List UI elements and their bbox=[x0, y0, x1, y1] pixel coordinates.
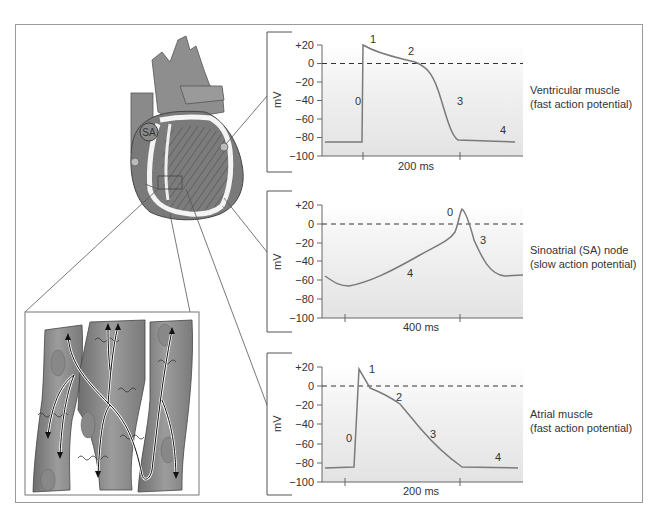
ytick: 0 bbox=[288, 57, 314, 70]
x-axis-label: 400 ms bbox=[403, 321, 439, 334]
phase-label: 2 bbox=[408, 45, 414, 58]
chart-title-line2: (slow action potential) bbox=[530, 258, 636, 271]
x-axis-label: 200 ms bbox=[403, 485, 439, 498]
ytick: 0 bbox=[288, 380, 314, 393]
y-axis-label: mV bbox=[271, 416, 284, 433]
ytick: −20 bbox=[288, 76, 314, 89]
chart-title-line2: (fast action potential) bbox=[530, 422, 632, 435]
ytick: −60 bbox=[288, 113, 314, 126]
ytick: 0 bbox=[288, 218, 314, 231]
phase-label: 0 bbox=[346, 432, 352, 445]
phase-label: 1 bbox=[369, 363, 375, 376]
ytick: +20 bbox=[288, 361, 314, 374]
phase-label: 3 bbox=[457, 95, 463, 108]
phase-label: 4 bbox=[500, 124, 506, 137]
y-axis-label: mV bbox=[271, 254, 284, 271]
ytick: −60 bbox=[288, 438, 314, 451]
ytick: −100 bbox=[284, 476, 314, 489]
phase-label: 0 bbox=[355, 95, 361, 108]
ytick: −80 bbox=[288, 457, 314, 470]
ytick: −20 bbox=[288, 237, 314, 250]
ytick: −100 bbox=[284, 150, 314, 163]
ytick: −40 bbox=[288, 255, 314, 268]
ytick: −20 bbox=[288, 399, 314, 412]
phase-label: 0 bbox=[447, 206, 453, 219]
phase-label: 4 bbox=[495, 451, 501, 464]
phase-label: 3 bbox=[480, 234, 486, 247]
ytick: −40 bbox=[288, 418, 314, 431]
phase-label: 1 bbox=[370, 33, 376, 46]
ytick: −40 bbox=[288, 94, 314, 107]
chart-title-line1: Ventricular muscle bbox=[530, 84, 620, 97]
ytick: −80 bbox=[288, 293, 314, 306]
ytick: −80 bbox=[288, 131, 314, 144]
chart-title-line1: Atrial muscle bbox=[530, 408, 593, 421]
chart-title-line1: Sinoatrial (SA) node bbox=[530, 244, 628, 257]
phase-label: 3 bbox=[430, 428, 436, 441]
ytick: −60 bbox=[288, 274, 314, 287]
ytick: +20 bbox=[288, 199, 314, 212]
x-axis-label: 200 ms bbox=[398, 160, 434, 173]
cardiac-cells-inset bbox=[25, 312, 199, 495]
sa-node-label: SA bbox=[142, 127, 156, 138]
ytick: −100 bbox=[284, 312, 314, 325]
chart-title-line2: (fast action potential) bbox=[530, 98, 632, 111]
y-axis-label: mV bbox=[271, 92, 284, 109]
phase-label: 4 bbox=[407, 267, 413, 280]
phase-label: 2 bbox=[396, 391, 402, 404]
ytick: +20 bbox=[288, 39, 314, 52]
